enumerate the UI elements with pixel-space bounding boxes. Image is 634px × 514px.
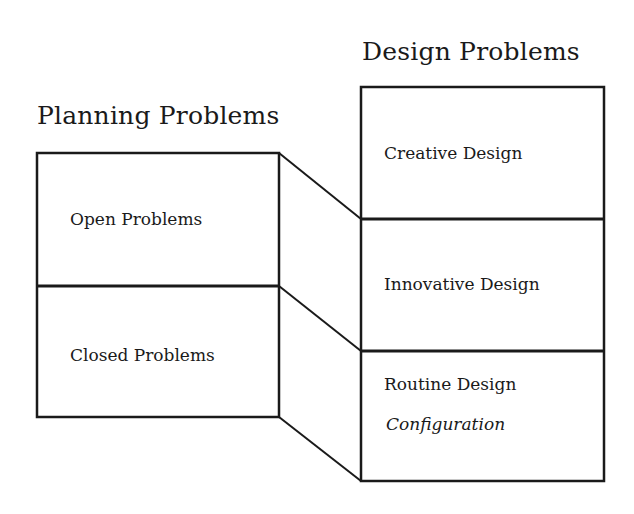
diagram-lines <box>0 0 634 514</box>
open-problems-label: Open Problems <box>70 209 202 229</box>
closed-problems-label: Closed Problems <box>70 345 215 365</box>
connector-middle <box>279 286 361 351</box>
routine-design-label: Routine Design <box>384 374 516 394</box>
design-problems-title: Design Problems <box>362 37 580 66</box>
connector-top <box>279 153 361 219</box>
planning-problems-title: Planning Problems <box>37 101 280 130</box>
configuration-label: Configuration <box>386 414 505 434</box>
creative-design-label: Creative Design <box>384 143 522 163</box>
connector-bottom <box>279 417 361 481</box>
innovative-design-label: Innovative Design <box>384 274 540 294</box>
